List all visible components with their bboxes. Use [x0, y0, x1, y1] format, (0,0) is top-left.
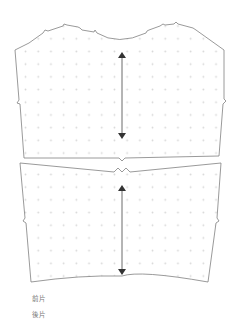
- pattern-diagram: [0, 0, 244, 327]
- front-piece-outline: [15, 22, 226, 161]
- legend-item-front: 前片: [32, 291, 46, 307]
- back-piece-outline: [20, 163, 221, 282]
- front-piece: [15, 22, 226, 161]
- legend: 前片 後片: [32, 291, 46, 323]
- legend-item-back: 後片: [32, 307, 46, 323]
- back-piece: [20, 163, 221, 282]
